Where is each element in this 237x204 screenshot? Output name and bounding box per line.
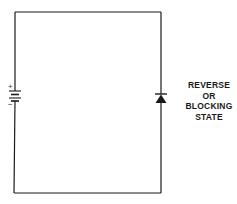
- diode-triangle: [156, 95, 167, 104]
- caption-line-2: OR: [182, 91, 236, 102]
- battery-minus-sign: −: [8, 101, 13, 109]
- caption-line-3: BLOCKING: [182, 101, 236, 112]
- diode-icon: [155, 94, 167, 103]
- circuit-wires: [14, 12, 161, 193]
- caption-line-4: STATE: [182, 112, 236, 123]
- caption-line-1: REVERSE: [182, 80, 236, 91]
- battery-plus-sign: +: [8, 83, 13, 91]
- left-wire-lower: [14, 101, 15, 193]
- state-caption: REVERSE OR BLOCKING STATE: [182, 80, 236, 122]
